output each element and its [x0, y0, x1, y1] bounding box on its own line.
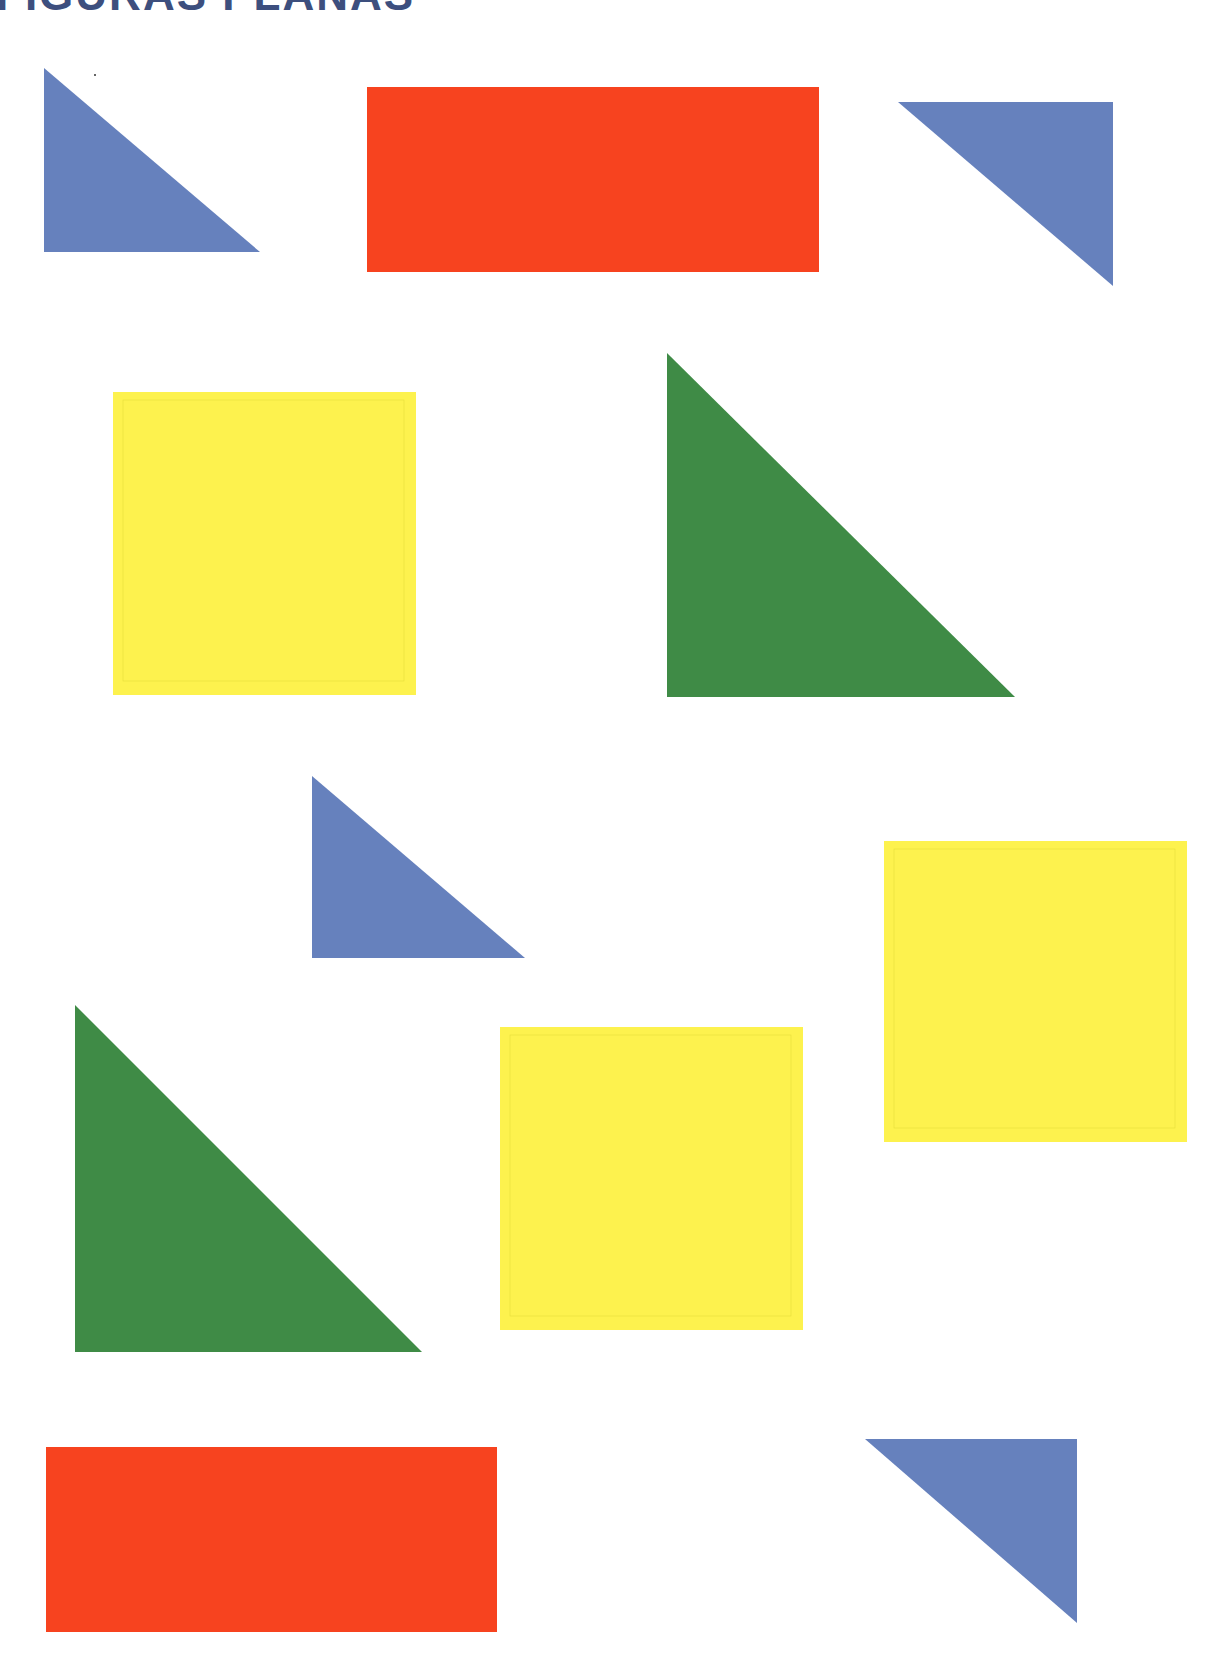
blue-triangle-shape — [865, 1439, 1077, 1623]
blue-triangle-shape — [898, 102, 1113, 286]
green-triangle-shape — [667, 353, 1015, 697]
yellow-square-shape — [884, 841, 1187, 1142]
green-triangle-shape — [75, 1005, 422, 1352]
yellow-square-shape — [113, 392, 416, 695]
red-rectangle-shape — [367, 87, 819, 272]
red-rectangle-shape — [46, 1447, 497, 1632]
blue-triangle-shape — [44, 68, 260, 252]
yellow-square-shape — [500, 1027, 803, 1330]
shapes-canvas — [0, 0, 1227, 1677]
blue-triangle-shape — [312, 776, 525, 958]
